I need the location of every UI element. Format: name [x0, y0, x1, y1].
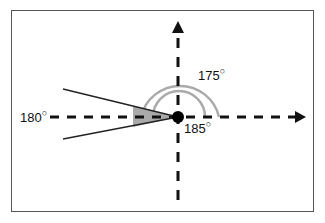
- label-180: 180○: [20, 109, 47, 125]
- degree-icon: ○: [206, 119, 211, 129]
- upper-ray: [63, 89, 178, 117]
- angle-diagram: [0, 0, 325, 223]
- label-185-value: 185: [184, 121, 206, 136]
- up-arrow-icon: [172, 21, 184, 33]
- label-185: 185○: [184, 120, 211, 136]
- label-175-value: 175: [198, 68, 220, 83]
- label-175: 175○: [198, 67, 225, 83]
- right-arrow-icon: [295, 111, 306, 123]
- center-point: [172, 111, 184, 123]
- degree-icon: ○: [42, 108, 47, 118]
- label-180-value: 180: [20, 110, 42, 125]
- degree-icon: ○: [220, 66, 225, 76]
- lower-ray: [63, 117, 178, 139]
